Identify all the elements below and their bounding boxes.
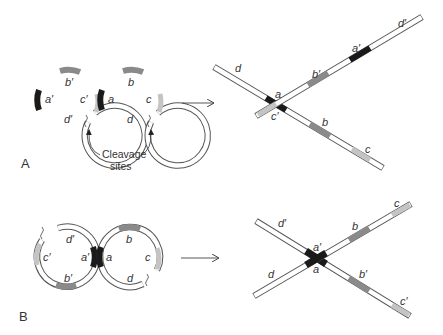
cross-b-label-a: a — [313, 263, 319, 275]
cleavage-mark-b-left — [41, 227, 44, 239]
panel-a-circles: a′ b′ c′ d′ a b c d Cleavage sites — [37, 70, 207, 172]
strand-b-1 — [256, 221, 410, 316]
label-b-prime: b′ — [65, 76, 74, 88]
label-a: a — [108, 93, 114, 105]
strand-a-1 — [214, 67, 383, 168]
label-b-b-prime: b′ — [64, 272, 73, 284]
cross-a-label-d: d — [235, 62, 242, 74]
cross-a-label-c-prime: c′ — [271, 110, 280, 122]
cross-b-label-c: c — [394, 197, 400, 209]
cross-a-label-a-prime: a′ — [352, 42, 361, 54]
label-b-b: b — [126, 233, 132, 245]
label-b-a: a — [106, 251, 112, 263]
panel-label-b: B — [19, 309, 28, 324]
cleavage-label-line2: sites — [110, 160, 132, 172]
cross-a-label-b-prime: b′ — [312, 68, 321, 80]
cross-a-label-a: a — [275, 88, 281, 100]
panel-a-cross: d a c′ b′ a′ d′ b c — [214, 17, 422, 168]
recombination-diagram: a′ b′ c′ d′ a b c d Cleavage sites A — [0, 0, 443, 335]
label-d: d — [127, 113, 134, 125]
label-b-d-prime: d′ — [66, 233, 75, 245]
label-b-c-prime: c′ — [43, 251, 52, 263]
cross-b-label-c-prime: c′ — [400, 295, 409, 307]
label-b-a-prime: a′ — [81, 251, 90, 263]
label-a-prime: a′ — [45, 93, 54, 105]
cross-a-label-c: c — [365, 143, 371, 155]
panel-b-cross: d′ a′ a d b c b′ c′ — [254, 197, 411, 316]
cross-a-label-b: b — [322, 116, 328, 128]
cleavage-label-line1: Cleavage — [102, 148, 147, 160]
label-b-c: c — [145, 251, 151, 263]
cross-b-label-b-prime: b′ — [359, 268, 368, 280]
cleavage-mark-b-right — [146, 274, 149, 286]
label-c-prime: c′ — [80, 93, 89, 105]
cross-b-label-d: d — [268, 268, 275, 280]
label-b-d: d — [127, 272, 134, 284]
strand-a-2 — [256, 17, 422, 116]
label-b: b — [128, 76, 134, 88]
cross-b-label-a-prime: a′ — [313, 241, 322, 253]
label-d-prime: d′ — [64, 113, 73, 125]
cross-b-label-d-prime: d′ — [278, 217, 287, 229]
panel-b-circles: d′ c′ a′ b′ a b c d — [36, 227, 160, 287]
label-c: c — [146, 93, 152, 105]
cross-b-label-b: b — [352, 220, 358, 232]
cross-a-label-d-prime: d′ — [398, 17, 407, 29]
panel-label-a: A — [21, 156, 30, 171]
